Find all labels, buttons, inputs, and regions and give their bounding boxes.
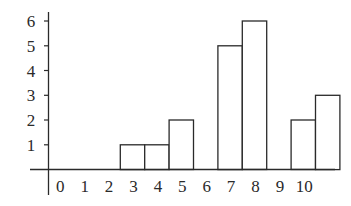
bar-3	[145, 145, 169, 170]
x-tick-label: 3	[129, 177, 138, 196]
y-tick-label: 5	[27, 37, 36, 56]
histogram-chart: 123456 012345678910	[0, 0, 351, 206]
y-tick-label: 6	[27, 12, 36, 31]
bar-7	[242, 21, 266, 170]
bar-6	[218, 46, 242, 170]
y-tick-label: 4	[27, 62, 36, 81]
x-tick-label: 9	[276, 177, 285, 196]
y-tick-label: 2	[27, 111, 36, 130]
x-tick-label: 1	[80, 177, 89, 196]
x-tick-label: 0	[56, 177, 65, 196]
x-tick-label: 5	[178, 177, 187, 196]
bar-2	[120, 145, 144, 170]
y-tick-label: 1	[27, 136, 36, 155]
y-tick-label: 3	[27, 86, 36, 105]
x-tick-label: 7	[227, 177, 236, 196]
x-tick-label: 8	[251, 177, 260, 196]
bar-9	[291, 120, 315, 170]
x-tick-label: 6	[202, 177, 211, 196]
bar-4	[169, 120, 193, 170]
y-ticks-group: 123456	[27, 12, 49, 155]
bars-group	[120, 21, 340, 170]
x-tick-label: 10	[296, 177, 313, 196]
x-labels-group: 012345678910	[56, 177, 313, 196]
bar-10	[316, 95, 340, 169]
x-tick-label: 2	[105, 177, 114, 196]
x-tick-label: 4	[154, 177, 163, 196]
